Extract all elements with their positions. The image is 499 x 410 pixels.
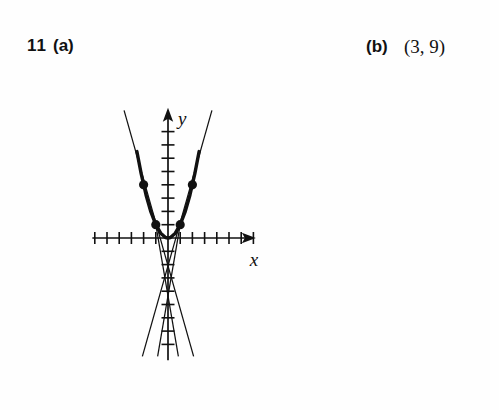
y-axis-label: y — [176, 108, 187, 129]
answer-label-row: 11 (a) (b) (3, 9) — [0, 36, 499, 70]
part-b-label: (b) — [366, 37, 388, 57]
data-point-marker — [188, 180, 197, 189]
part-b-value: (3, 9) — [404, 36, 445, 58]
data-point-marker — [139, 180, 148, 189]
answer-figure-page: 11 (a) (b) (3, 9) x y — [0, 0, 499, 410]
data-point-marker — [151, 220, 160, 229]
question-number: 11 — [27, 36, 47, 56]
data-point-marker — [176, 220, 185, 229]
x-axis-label: x — [249, 249, 259, 270]
graph-figure: x y — [0, 70, 360, 406]
part-a-label: (a) — [53, 36, 74, 56]
coordinate-plane-svg: x y — [0, 70, 360, 406]
